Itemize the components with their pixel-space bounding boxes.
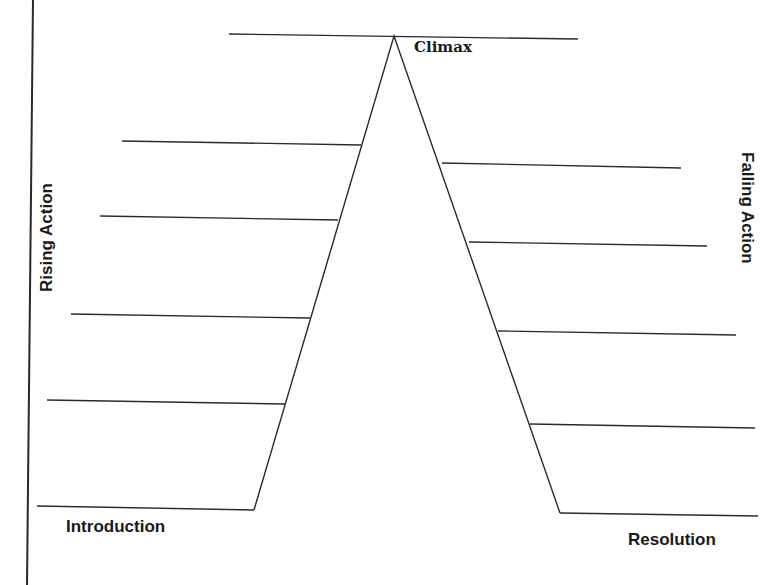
plot-diagram-lines — [0, 0, 763, 585]
resolution-writing-line — [560, 513, 758, 516]
resolution-label: Resolution — [628, 530, 716, 550]
falling-action-writing-line-2 — [469, 242, 707, 246]
climax-writing-line — [229, 34, 578, 39]
falling-action-writing-line-1 — [442, 163, 681, 168]
margin-line — [27, 0, 33, 585]
climax-label: Climax — [414, 38, 472, 56]
plot-mountain — [254, 36, 560, 513]
rising-action-writing-line-2 — [100, 216, 338, 220]
falling-action-writing-line-3 — [498, 331, 736, 335]
plot-diagram: Climax Rising Action Falling Action Intr… — [0, 0, 763, 585]
rising-action-writing-line-3 — [71, 314, 310, 318]
introduction-label: Introduction — [66, 517, 165, 537]
rising-action-writing-line-4 — [47, 400, 285, 404]
falling-action-label: Falling Action — [737, 152, 757, 264]
rising-action-label: Rising Action — [37, 183, 57, 292]
falling-action-writing-line-4 — [530, 424, 755, 428]
introduction-writing-line — [37, 506, 254, 510]
rising-action-writing-line-1 — [122, 141, 361, 145]
